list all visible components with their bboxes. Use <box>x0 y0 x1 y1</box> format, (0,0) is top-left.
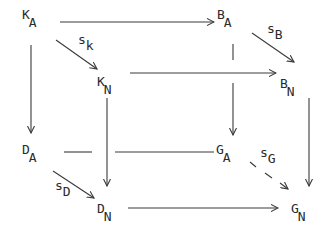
edge-label-s-k: sk <box>78 33 94 46</box>
edge-ga-gn-dash2 <box>265 173 272 178</box>
edge-label-s-d-main: s <box>55 178 63 193</box>
node-b-a-sub: A <box>224 15 232 30</box>
node-g-n-sub: N <box>298 209 306 224</box>
node-k-n: KN <box>97 75 113 88</box>
edge-ga-gn-dash1 <box>250 162 256 167</box>
edge-label-s-g-sub: G <box>268 151 276 166</box>
node-g-a-sub: A <box>223 150 231 165</box>
edge-label-s-b-main: s <box>267 21 275 36</box>
node-k-a: KA <box>22 8 38 21</box>
node-d-a: DA <box>22 143 38 156</box>
edge-ba-bn <box>252 33 294 62</box>
edge-label-s-d: sD <box>55 179 71 192</box>
node-k-a-sub: A <box>29 15 37 30</box>
node-b-n: BN <box>280 77 296 90</box>
node-g-n: GN <box>291 202 307 215</box>
node-k-n-sub: N <box>104 82 112 97</box>
node-d-n-sub: N <box>104 209 112 224</box>
edge-label-s-b-sub: B <box>275 27 283 42</box>
edge-label-s-k-sub: k <box>86 38 94 53</box>
node-g-a: GA <box>216 143 232 156</box>
node-b-n-sub: N <box>287 84 295 99</box>
node-d-n: DN <box>97 202 113 215</box>
edge-label-s-g: sG <box>260 146 276 159</box>
edge-label-s-k-main: s <box>78 32 86 47</box>
edge-ga-gn <box>280 183 288 189</box>
edge-label-s-b: sB <box>267 22 283 35</box>
node-d-a-sub: A <box>29 150 37 165</box>
edge-label-s-d-sub: D <box>63 184 71 199</box>
node-b-a: BA <box>217 8 233 21</box>
edge-label-s-g-main: s <box>260 145 268 160</box>
